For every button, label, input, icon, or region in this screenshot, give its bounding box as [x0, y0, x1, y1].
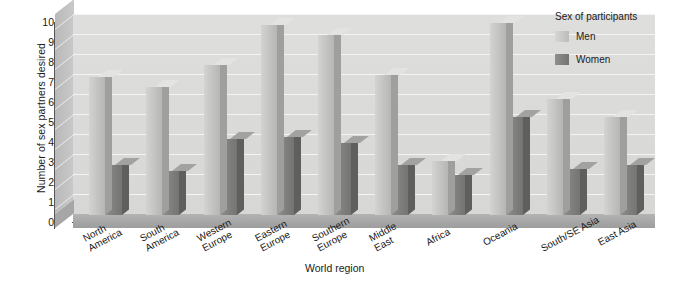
y-tick-label: 9 — [32, 36, 54, 48]
bar-side — [448, 156, 455, 215]
y-tick-label: 7 — [32, 76, 54, 88]
legend-item-women[interactable]: Women — [555, 52, 673, 67]
bar-face — [547, 99, 563, 215]
y-tick-label: 6 — [32, 96, 54, 108]
legend-swatch-women — [555, 54, 569, 65]
bar-face — [204, 65, 220, 215]
bar-top — [98, 70, 123, 77]
bar-side — [220, 60, 227, 215]
bar-side — [391, 70, 398, 215]
bar-men[interactable] — [604, 117, 620, 215]
y-tick-label: 10 — [32, 16, 54, 28]
y-tick-label: 3 — [32, 156, 54, 168]
bar-side — [408, 160, 415, 215]
bar-face — [261, 25, 277, 215]
bar-men[interactable] — [261, 25, 277, 215]
bar-side — [162, 82, 169, 215]
bar-top — [155, 80, 180, 87]
legend-title: Sex of participants — [555, 11, 673, 22]
legend-item-men[interactable]: Men — [555, 29, 673, 44]
bar-side — [563, 94, 570, 215]
bar-group — [89, 15, 122, 215]
legend: Sex of participants Men Women — [555, 11, 673, 75]
legend-label-men: Men — [576, 31, 595, 42]
bar-chart: Number of sex partners desired 012345678… — [0, 0, 677, 295]
bar-face — [432, 161, 448, 215]
y-axis: 012345678910 — [24, 18, 54, 233]
bar-side — [334, 30, 341, 215]
bar-men[interactable] — [490, 23, 506, 215]
bar-side — [105, 72, 112, 215]
bar-group — [261, 15, 294, 215]
bar-group — [146, 15, 179, 215]
bar-side — [294, 132, 301, 215]
bar-face — [375, 75, 391, 215]
y-tick-label: 4 — [32, 136, 54, 148]
bar-top — [498, 16, 523, 23]
bar-face — [490, 23, 506, 215]
y-tick-label: 8 — [32, 56, 54, 68]
bar-top — [556, 92, 581, 99]
bar-side — [237, 134, 244, 215]
bar-side — [637, 160, 644, 215]
bar-side — [465, 170, 472, 215]
bar-side — [277, 20, 284, 215]
y-tick-label: 2 — [32, 176, 54, 188]
legend-label-women: Women — [576, 54, 610, 65]
x-tick-label: Africa — [424, 226, 452, 248]
y-tick-label: 0 — [32, 216, 54, 228]
bar-top — [613, 110, 638, 117]
bar-group — [432, 15, 465, 215]
bar-top — [212, 58, 237, 65]
bar-men[interactable] — [432, 161, 448, 215]
bar-men[interactable] — [146, 87, 162, 215]
bar-top — [441, 154, 466, 161]
bar-top — [270, 18, 295, 25]
bar-face — [318, 35, 334, 215]
bar-group — [204, 15, 237, 215]
x-axis-title: World region — [305, 262, 364, 274]
bar-top — [384, 68, 409, 75]
bar-side — [580, 164, 587, 215]
bar-men[interactable] — [89, 77, 105, 215]
bar-men[interactable] — [318, 35, 334, 215]
bar-men[interactable] — [204, 65, 220, 215]
bar-side — [122, 160, 129, 215]
bar-side — [506, 18, 513, 215]
y-tick-label: 5 — [32, 116, 54, 128]
bar-side — [351, 138, 358, 215]
y-tick-label: 1 — [32, 196, 54, 208]
bar-face — [89, 77, 105, 215]
bar-face — [604, 117, 620, 215]
bar-men[interactable] — [375, 75, 391, 215]
bar-side — [523, 112, 530, 215]
bar-top — [327, 28, 352, 35]
bar-side — [620, 112, 627, 215]
legend-swatch-men — [555, 31, 569, 42]
bar-group — [490, 15, 523, 215]
bar-group — [318, 15, 351, 215]
bar-group — [375, 15, 408, 215]
bar-face — [146, 87, 162, 215]
bar-men[interactable] — [547, 99, 563, 215]
bar-side — [179, 166, 186, 215]
